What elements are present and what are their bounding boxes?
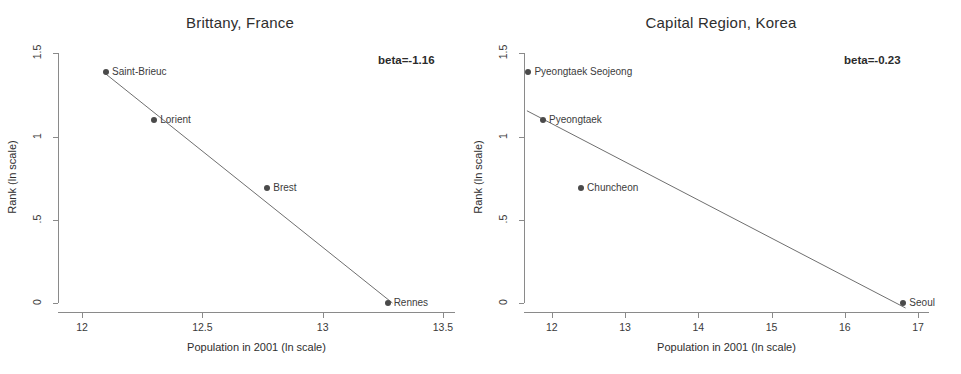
panel-title-korea: Capital Region, Korea — [481, 14, 961, 31]
data-point-label: Rennes — [394, 297, 428, 308]
x-axis-tick — [552, 313, 553, 318]
y-axis-line — [58, 53, 59, 303]
panel-title-brittany: Brittany, France — [0, 14, 480, 31]
data-point-label: Brest — [273, 182, 296, 193]
x-axis-line — [524, 312, 929, 313]
y-axis-tick-label: .5 — [31, 206, 43, 232]
x-axis-tick — [625, 313, 626, 318]
y-axis-tick-label: 1 — [497, 123, 509, 149]
data-point[interactable] — [151, 117, 157, 123]
plot-area-brittany: 0.511.51212.51313.5Population in 2001 (l… — [58, 45, 455, 313]
x-axis-tick-label: 12 — [546, 321, 558, 333]
regression-fit-line — [58, 45, 455, 313]
x-axis-tick — [443, 313, 444, 318]
data-point[interactable] — [578, 185, 584, 191]
y-axis-tick — [53, 137, 58, 138]
regression-fit-line — [524, 45, 929, 313]
x-axis-tick — [698, 313, 699, 318]
data-point-label: Lorient — [160, 114, 191, 125]
x-axis-tick-label: 12.5 — [192, 321, 212, 333]
x-axis-tick-label: 13 — [317, 321, 329, 333]
x-axis-tick-label: 14 — [692, 321, 704, 333]
data-point-label: Seoul — [909, 297, 935, 308]
y-axis-tick — [519, 53, 524, 54]
y-axis-tick-label: 1.5 — [497, 39, 509, 65]
chart-panel-korea: Capital Region, Korea beta=-0.23 0.511.5… — [481, 0, 961, 374]
data-point-label: Saint-Brieuc — [112, 66, 166, 77]
x-axis-tick — [202, 313, 203, 318]
y-axis-tick-label: 1.5 — [31, 39, 43, 65]
y-axis-tick — [53, 303, 58, 304]
x-axis-tick-label: 15 — [766, 321, 778, 333]
data-point-label: Chuncheon — [587, 182, 638, 193]
x-axis-tick — [772, 313, 773, 318]
x-axis-tick-label: 13.5 — [433, 321, 453, 333]
x-axis-tick — [845, 313, 846, 318]
data-point[interactable] — [525, 69, 531, 75]
y-axis-tick — [519, 303, 524, 304]
x-axis-tick-label: 16 — [839, 321, 851, 333]
data-point-label: Pyeongtaek Seojeong — [534, 66, 632, 77]
x-axis-tick — [918, 313, 919, 318]
x-axis-title: Population in 2001 (ln scale) — [657, 341, 796, 353]
chart-panel-brittany: Brittany, France beta=-1.16 0.511.51212.… — [0, 0, 480, 374]
data-point[interactable] — [540, 117, 546, 123]
x-axis-tick-label: 12 — [76, 321, 88, 333]
y-axis-title: Rank (ln scale) — [472, 43, 484, 311]
plot-area-korea: 0.511.5121314151617Population in 2001 (l… — [524, 45, 929, 313]
y-axis-tick — [519, 137, 524, 138]
data-point[interactable] — [103, 69, 109, 75]
x-axis-title: Population in 2001 (ln scale) — [187, 341, 326, 353]
y-axis-tick-label: 0 — [31, 289, 43, 315]
x-axis-tick — [323, 313, 324, 318]
y-axis-tick-label: .5 — [497, 206, 509, 232]
data-point[interactable] — [900, 300, 906, 306]
y-axis-tick — [519, 220, 524, 221]
data-point[interactable] — [385, 300, 391, 306]
x-axis-tick — [82, 313, 83, 318]
y-axis-title: Rank (ln scale) — [6, 43, 18, 311]
y-axis-line — [524, 53, 525, 303]
y-axis-tick-label: 1 — [31, 123, 43, 149]
y-axis-tick — [53, 220, 58, 221]
x-axis-tick-label: 17 — [912, 321, 924, 333]
figure-canvas: Brittany, France beta=-1.16 0.511.51212.… — [0, 0, 961, 374]
x-axis-tick-label: 13 — [619, 321, 631, 333]
y-axis-tick-label: 0 — [497, 289, 509, 315]
data-point[interactable] — [264, 185, 270, 191]
y-axis-tick — [53, 53, 58, 54]
x-axis-line — [58, 312, 455, 313]
data-point-label: Pyeongtaek — [549, 114, 602, 125]
